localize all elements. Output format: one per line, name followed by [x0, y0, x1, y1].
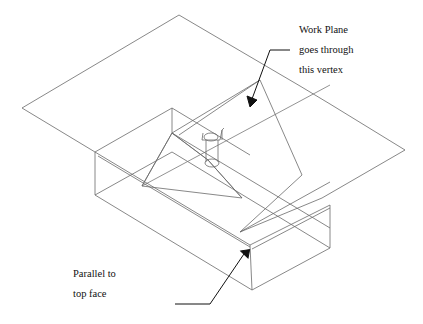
annotation-line: goes through: [299, 40, 354, 60]
annotation-parallel: Parallel to top face: [73, 264, 116, 304]
diagram-canvas: Work Plane goes through this vertex Para…: [0, 0, 423, 324]
wireframe-drawing: [0, 0, 423, 324]
arrow-to-top-face: [175, 250, 251, 304]
box-solid: [95, 80, 330, 290]
annotation-line: Parallel to: [73, 264, 116, 284]
annotation-line: top face: [73, 284, 116, 304]
annotation-line: this vertex: [299, 60, 354, 80]
annotation-line: Work Plane: [299, 20, 354, 40]
annotation-work-plane: Work Plane goes through this vertex: [299, 20, 354, 80]
